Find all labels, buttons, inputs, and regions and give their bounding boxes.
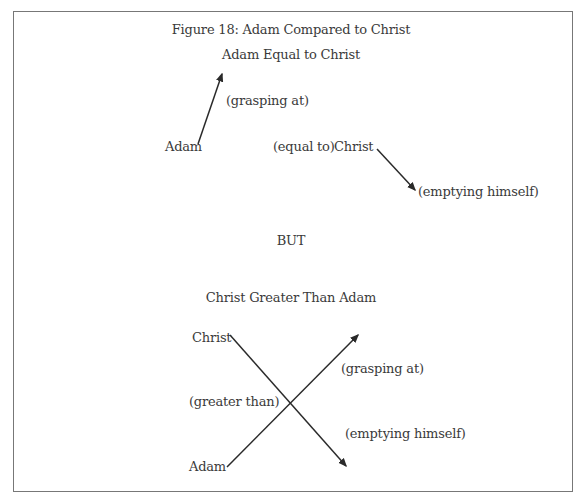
diagram-arrows bbox=[0, 0, 583, 504]
arrow-adam-grasping bbox=[198, 74, 222, 144]
arrow-christ-emptying bbox=[377, 149, 415, 190]
